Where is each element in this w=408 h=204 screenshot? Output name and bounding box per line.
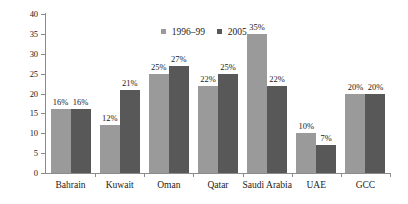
- x-axis-tick: [95, 173, 96, 177]
- bar-value-label: 7%: [311, 134, 341, 143]
- bar: [169, 66, 189, 173]
- x-axis-line: [45, 173, 390, 174]
- bar: [345, 94, 365, 174]
- bar-value-label: 25%: [213, 63, 243, 72]
- x-axis-tick: [292, 173, 293, 177]
- x-axis-tick: [390, 173, 391, 177]
- plot-area: 16%16%12%21%25%27%22%25%35%22%10%7%20%20…: [46, 14, 390, 173]
- y-axis-label: 5: [14, 149, 38, 158]
- bar-group: 16%16%: [51, 14, 91, 173]
- bar: [198, 86, 218, 173]
- x-axis-category-label: Saudi Arabia: [243, 180, 292, 191]
- bar-group: 35%22%: [247, 14, 287, 173]
- bar-group: 12%21%: [100, 14, 140, 173]
- x-axis-tick: [193, 173, 194, 177]
- bar-value-label: 35%: [242, 23, 272, 32]
- x-axis-category-label: GCC: [341, 180, 390, 191]
- bar-value-label: 21%: [115, 79, 145, 88]
- bar: [71, 109, 91, 173]
- bar: [100, 125, 120, 173]
- bar-value-label: 16%: [66, 98, 96, 107]
- x-axis-tick: [243, 173, 244, 177]
- x-axis-tick: [341, 173, 342, 177]
- x-axis-category-label: UAE: [292, 180, 341, 191]
- bar-group: 22%25%: [198, 14, 238, 173]
- y-axis-label: 10: [14, 129, 38, 138]
- bar: [218, 74, 238, 173]
- bar: [247, 34, 267, 173]
- y-axis-label: 15: [14, 109, 38, 118]
- bar: [51, 109, 71, 173]
- bar-value-label: 22%: [262, 75, 292, 84]
- bar: [365, 94, 385, 174]
- bar-chart: 0510152025303540 1996–99 2005 16%16%12%2…: [0, 0, 408, 204]
- x-axis-category-label: Oman: [144, 180, 193, 191]
- y-axis-label: 25: [14, 70, 38, 79]
- x-axis-category-label: Qatar: [193, 180, 242, 191]
- y-axis-label: 0: [14, 169, 38, 178]
- bar-value-label: 10%: [291, 122, 321, 131]
- bar: [267, 86, 287, 173]
- x-axis-category-label: Kuwait: [95, 180, 144, 191]
- x-axis-category-label: Bahrain: [46, 180, 95, 191]
- y-axis-tick: [41, 173, 46, 174]
- bar: [316, 145, 336, 173]
- bar-group: 20%20%: [345, 14, 385, 173]
- y-axis-label: 30: [14, 50, 38, 59]
- y-axis-label: 40: [14, 10, 38, 19]
- y-axis-label: 20: [14, 90, 38, 99]
- x-axis-tick: [144, 173, 145, 177]
- bar: [120, 90, 140, 173]
- bar: [149, 74, 169, 173]
- bar-group: 25%27%: [149, 14, 189, 173]
- bar-value-label: 20%: [360, 83, 390, 92]
- bar-group: 10%7%: [296, 14, 336, 173]
- bar-value-label: 27%: [164, 55, 194, 64]
